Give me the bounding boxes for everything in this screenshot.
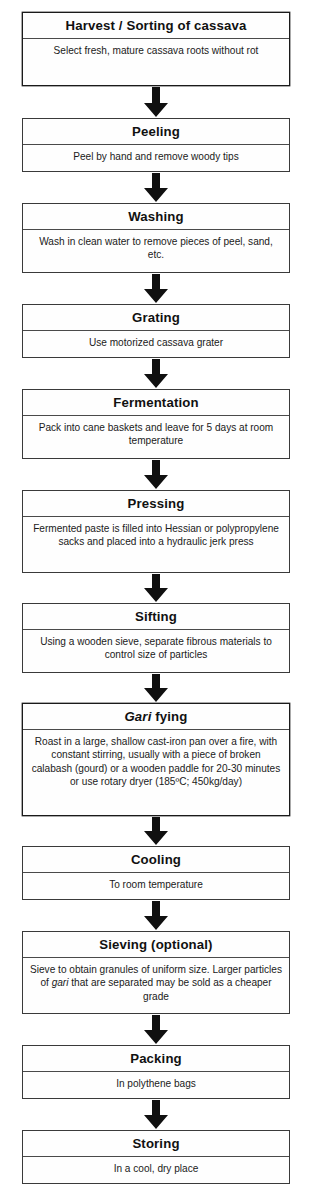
down-arrow-icon [143,173,169,202]
step-header-gari-fying: Gari fying [23,704,289,730]
step-body-washing: Wash in clean water to remove pieces of … [23,230,289,268]
step-body-peeling: Peel by hand and remove woody tips [23,145,289,169]
down-arrow-icon [143,674,169,702]
step-body-sieving: Sieve to obtain granules of uniform size… [23,958,289,1009]
step-header-cooling: Cooling [23,847,289,873]
connector-arrow-7 [22,673,290,703]
step-header-gari-rest: fying [151,709,187,724]
flow-step-fermentation: Fermentation Pack into cane baskets and … [22,389,290,459]
step-header-peeling: Peeling [23,119,289,145]
flow-step-grating: Grating Use motorized cassava grater [22,304,290,358]
flow-step-packing: Packing In polythene bags [22,1045,290,1099]
down-arrow-icon [143,817,169,845]
step-body-sifting: Using a wooden sieve, separate fibrous m… [23,630,289,668]
step-header-packing: Packing [23,1046,289,1072]
step-header-sieving: Sieving (optional) [23,932,289,958]
connector-arrow-11 [22,1099,290,1130]
step-body-fermentation: Pack into cane baskets and leave for 5 d… [23,416,289,454]
step-body-sieving-part2: that are separated may be sold as a chea… [68,977,271,1001]
step-body-grating: Use motorized cassava grater [23,331,289,355]
step-header-grating: Grating [23,305,289,331]
step-header-sifting: Sifting [23,604,289,630]
step-body-sieving-gari-italic: gari [52,977,69,988]
connector-arrow-9 [22,900,290,931]
flow-step-washing: Washing Wash in clean water to remove pi… [22,203,290,273]
connector-arrow-10 [22,1014,290,1045]
connector-arrow-8 [22,816,290,846]
down-arrow-icon [143,359,169,388]
connector-arrow-6 [22,573,290,603]
step-header-pressing: Pressing [23,491,289,517]
down-arrow-icon [143,901,169,930]
connector-arrow-4 [22,358,290,389]
flow-step-sifting: Sifting Using a wooden sieve, separate f… [22,603,290,673]
connector-arrow-5 [22,459,290,490]
flow-step-cooling: Cooling To room temperature [22,846,290,900]
connector-arrow-3 [22,273,290,304]
flow-step-gari-fying: Gari fying Roast in a large, shallow cas… [22,703,290,816]
down-arrow-icon [143,274,169,303]
step-header-fermentation: Fermentation [23,390,289,416]
step-body-cooling: To room temperature [23,873,289,897]
step-header-washing: Washing [23,204,289,230]
flow-step-harvest: Harvest / Sorting of cassava Select fres… [22,12,290,86]
down-arrow-icon [143,1015,169,1044]
step-body-harvest: Select fresh, mature cassava roots witho… [23,39,289,63]
flow-step-storing: Storing In a cool, dry place [22,1130,290,1184]
step-header-gari-italic: Gari [124,709,151,724]
down-arrow-icon [143,87,169,117]
down-arrow-icon [143,460,169,489]
step-body-pressing: Fermented paste is filled into Hessian o… [23,517,289,555]
connector-arrow-1 [22,86,290,118]
flow-step-sieving: Sieving (optional) Sieve to obtain granu… [22,931,290,1014]
down-arrow-icon [143,574,169,602]
process-flowchart: Harvest / Sorting of cassava Select fres… [0,0,314,1185]
step-header-harvest: Harvest / Sorting of cassava [23,13,289,39]
connector-arrow-2 [22,172,290,203]
step-header-storing: Storing [23,1131,289,1157]
flow-step-peeling: Peeling Peel by hand and remove woody ti… [22,118,290,172]
down-arrow-icon [143,1100,169,1129]
flow-step-pressing: Pressing Fermented paste is filled into … [22,490,290,573]
step-body-gari-fying: Roast in a large, shallow cast-iron pan … [23,730,289,794]
step-body-packing: In polythene bags [23,1072,289,1096]
step-body-storing: In a cool, dry place [23,1157,289,1181]
